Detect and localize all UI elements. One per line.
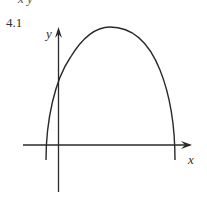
x-axis xyxy=(23,141,192,149)
parabola-curve xyxy=(46,27,175,160)
x-axis-label: x xyxy=(188,152,194,168)
parabola-graph xyxy=(0,0,207,206)
y-axis xyxy=(55,27,62,192)
y-axis-label: y xyxy=(46,26,52,42)
